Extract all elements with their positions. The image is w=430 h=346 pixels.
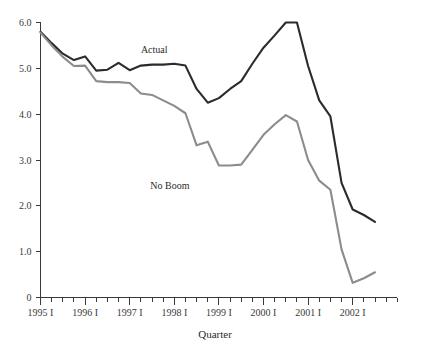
- y-tick-label: 2.0: [19, 200, 32, 211]
- x-axis-tick-labels: 1995 I1996 I1997 I1998 I1999 I2000 I2001…: [28, 307, 366, 318]
- chart-figure: 01.02.03.04.05.06.0 1995 I1996 I1997 I19…: [0, 0, 430, 346]
- y-tick-label: 0: [27, 292, 32, 303]
- y-axis-group: 01.02.03.04.05.06.0: [19, 17, 41, 303]
- data-series-group: [41, 23, 376, 283]
- x-tick-label: 2001 I: [295, 307, 321, 318]
- series-label-actual: Actual: [141, 44, 168, 55]
- x-tick-label: 2000 I: [251, 307, 277, 318]
- series-line-no-boom: [41, 33, 376, 283]
- x-axis-group: 1995 I1996 I1997 I1998 I1999 I2000 I2001…: [28, 298, 398, 318]
- x-tick-label: 1996 I: [72, 307, 98, 318]
- x-tick-label: 1999 I: [206, 307, 232, 318]
- series-line-actual: [41, 23, 376, 222]
- x-tick-label: 1997 I: [117, 307, 143, 318]
- line-chart-canvas: 01.02.03.04.05.06.0 1995 I1996 I1997 I19…: [0, 0, 430, 346]
- y-tick-label: 5.0: [19, 63, 32, 74]
- series-label-no-boom: No Boom: [150, 180, 189, 191]
- y-tick-label: 1.0: [19, 246, 32, 257]
- x-tick-label: 2002 I: [340, 307, 366, 318]
- y-axis-ticks: 01.02.03.04.05.06.0: [19, 17, 41, 303]
- x-axis-title: Quarter: [198, 328, 232, 340]
- x-tick-label: 1995 I: [28, 307, 54, 318]
- y-tick-label: 3.0: [19, 155, 32, 166]
- x-axis-ticks: [41, 298, 398, 305]
- x-tick-label: 1998 I: [161, 307, 187, 318]
- y-tick-label: 4.0: [19, 109, 32, 120]
- y-tick-label: 6.0: [19, 17, 32, 28]
